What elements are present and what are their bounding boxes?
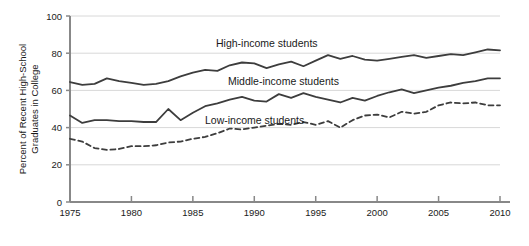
- y-tick-label: 60: [51, 85, 62, 96]
- x-tick-label: 2010: [489, 207, 510, 218]
- y-tick-label: 0: [57, 197, 62, 208]
- x-axis-ticks: 19751980198519901995200020052010: [59, 196, 510, 218]
- y-tick-label: 20: [51, 159, 62, 170]
- y-tick-label: 100: [46, 11, 62, 22]
- series-line-low-income-students: [70, 102, 500, 149]
- y-axis-title-line-1: Percent of Recent High-School: [17, 44, 28, 174]
- x-tick-label: 1985: [182, 207, 203, 218]
- series-annotation-high-income-students: High-income students: [216, 37, 318, 49]
- x-tick-label: 2000: [367, 207, 388, 218]
- y-tick-label: 40: [51, 122, 62, 133]
- line-chart: 0204060801001975198019851990199520002005…: [0, 0, 529, 246]
- x-tick-label: 1990: [244, 207, 265, 218]
- x-tick-label: 2005: [428, 207, 449, 218]
- series-annotation-middle-income-students: Middle-income students: [228, 75, 339, 87]
- series-group: [70, 49, 500, 149]
- x-tick-label: 1980: [121, 207, 142, 218]
- y-axis-ticks: 020406080100: [46, 11, 70, 208]
- x-tick-label: 1975: [59, 207, 80, 218]
- series-annotation-low-income-students: Low-income students: [205, 114, 304, 126]
- y-axis-title-line-2: Graduates in College: [29, 64, 40, 153]
- y-axis-title: Percent of Recent High-SchoolGraduates i…: [17, 44, 40, 174]
- series-annotations: High-income studentsMiddle-income studen…: [205, 37, 339, 126]
- x-tick-label: 1995: [305, 207, 326, 218]
- chart-figure: 0204060801001975198019851990199520002005…: [0, 0, 529, 246]
- y-tick-label: 80: [51, 48, 62, 59]
